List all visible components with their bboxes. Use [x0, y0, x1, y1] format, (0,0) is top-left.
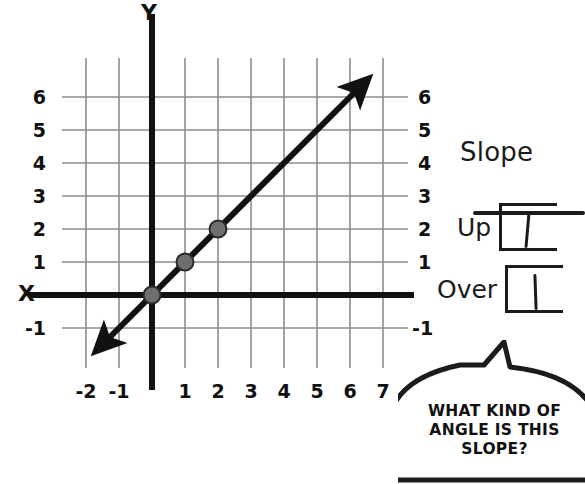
up-label: Up	[457, 213, 491, 242]
y-tick-right-6: 6	[418, 88, 431, 107]
over-answer-box[interactable]	[505, 265, 563, 313]
y-tick-right-5: 5	[418, 121, 431, 140]
y-tick-left-3: 3	[20, 187, 46, 206]
slope-heading: Slope	[460, 137, 533, 167]
y-tick-left-1: 1	[20, 253, 46, 272]
x-axis-label: X	[18, 283, 35, 305]
run-row: Over	[437, 265, 563, 313]
over-answer-mark	[534, 274, 538, 310]
slope-line	[96, 79, 368, 351]
y-tick-right-4: 4	[418, 154, 431, 173]
graph-canvas	[0, 0, 440, 425]
speech-bubble-text: WHAT KIND OF ANGLE IS THIS SLOPE?	[404, 402, 585, 459]
bubble-line-2: ANGLE IS THIS	[404, 421, 585, 440]
y-axis-label: Y	[141, 2, 157, 24]
point-0-0	[144, 287, 161, 304]
point-2-2	[210, 221, 227, 238]
y-tick-left-5: 5	[20, 121, 46, 140]
y-tick-right-3: 3	[418, 187, 431, 206]
y-tick-right-1: 1	[418, 253, 431, 272]
y-tick-left-6: 6	[20, 88, 46, 107]
over-label: Over	[437, 275, 497, 304]
y-tick-left-2: 2	[20, 220, 46, 239]
y-tick-left-neg1: -1	[10, 319, 46, 338]
fraction-bar	[473, 211, 585, 215]
bubble-line-1: WHAT KIND OF	[404, 402, 585, 421]
slope-answer-panel: Slope Up Over	[455, 125, 585, 340]
x-tick-neg1: -1	[99, 382, 139, 401]
up-answer-mark	[525, 212, 531, 248]
y-tick-right-neg1: -1	[412, 319, 433, 338]
y-tick-right-2: 2	[418, 220, 431, 239]
x-tick-7: 7	[363, 382, 403, 401]
point-1-1	[177, 254, 194, 271]
speech-bubble: WHAT KIND OF ANGLE IS THIS SLOPE?	[398, 340, 585, 484]
bubble-line-3: SLOPE?	[404, 440, 585, 459]
y-tick-left-4: 4	[20, 154, 46, 173]
coordinate-graph: Y X 6 5 4 3 2 1 -1 6 5 4 3 2 1 -1 -2 -1 …	[0, 0, 440, 425]
worksheet-page: Y X 6 5 4 3 2 1 -1 6 5 4 3 2 1 -1 -2 -1 …	[0, 0, 585, 484]
